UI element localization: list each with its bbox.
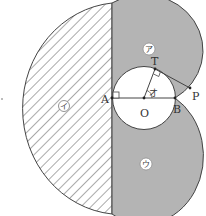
geometry-figure: A O B T P オ ア イ ウ [0, 0, 206, 216]
point-B [174, 97, 177, 100]
label-angle: オ [149, 88, 158, 98]
label-P: P [192, 90, 200, 103]
right-angle-mark-A [113, 92, 119, 98]
label-O: O [140, 107, 149, 120]
region-label-upper: ア [145, 45, 153, 54]
label-A: A [100, 93, 110, 106]
label-T: T [151, 55, 159, 68]
point-A [111, 97, 114, 100]
point-T [154, 68, 157, 71]
stray-dot [1, 98, 3, 100]
point-P [189, 87, 192, 90]
region-label-left: イ [60, 102, 68, 111]
region-label-lower: ウ [142, 160, 150, 169]
label-B: B [173, 103, 181, 116]
point-O [143, 97, 146, 100]
